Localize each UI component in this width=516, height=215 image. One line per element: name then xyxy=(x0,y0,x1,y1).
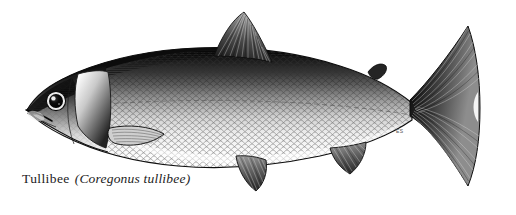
head xyxy=(26,66,111,156)
pelvic-fin xyxy=(236,156,267,191)
dorsal-fin-shape xyxy=(214,12,272,62)
caption-scientific-name: (Coregonus tullibee) xyxy=(75,171,191,186)
engraver-signature: ES xyxy=(396,128,404,134)
adipose-fin xyxy=(368,64,387,79)
illustration-plate: ES Tullibee(Coregonus tullibee) xyxy=(0,0,516,215)
caudal-fin xyxy=(410,26,480,186)
adipose-fin-shape xyxy=(368,64,387,79)
dorsal-fin xyxy=(214,12,272,62)
eye xyxy=(46,91,65,110)
pelvic-fin-shape xyxy=(236,156,267,191)
caption-common-name: Tullibee xyxy=(22,171,70,186)
caption: Tullibee(Coregonus tullibee) xyxy=(22,172,190,186)
